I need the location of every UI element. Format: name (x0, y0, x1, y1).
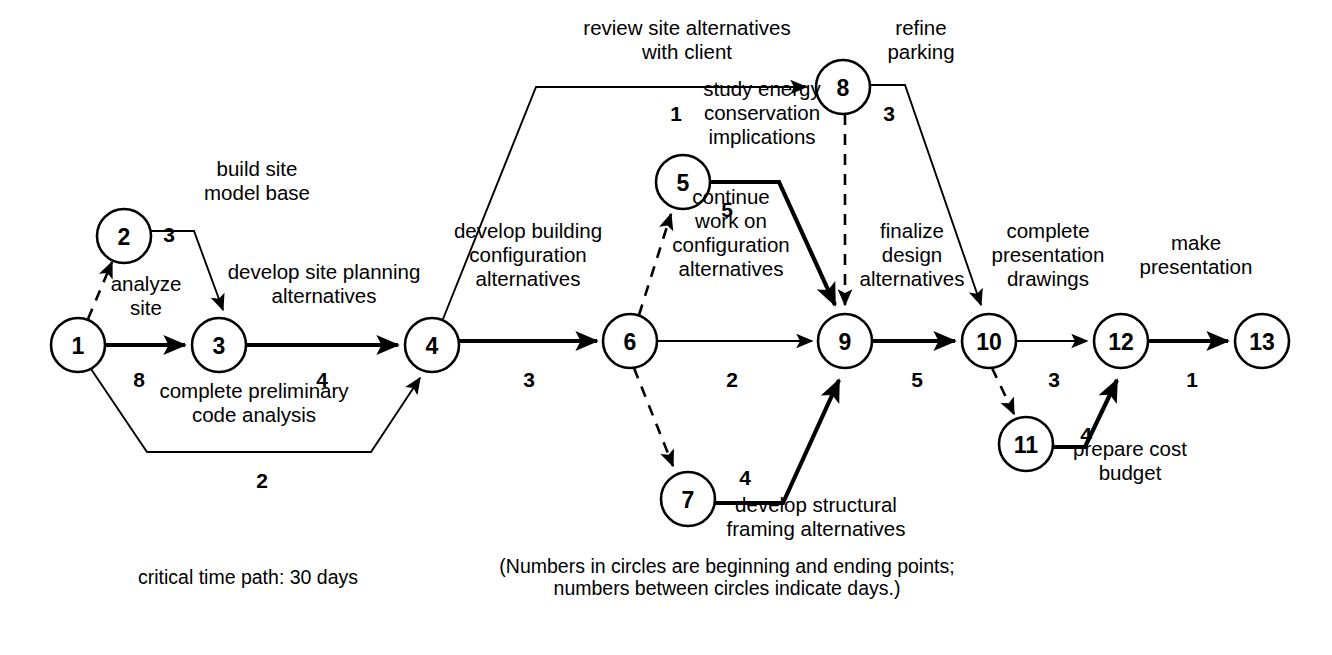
edge-1-to-2[interactable] (88, 262, 112, 319)
node-4[interactable]: 4 (405, 318, 459, 372)
duration-label-3-4: 4 (316, 368, 328, 391)
edge-7-to-9[interactable] (715, 380, 839, 503)
task-label-review-site-alternatives: review site alternativeswith client (583, 16, 790, 63)
cpm-network-diagram-svg: 1 2 3 4 5 6 7 (0, 0, 1332, 655)
task-label-develop-site-planning: develop site planningalternatives (228, 260, 421, 307)
duration-label-6-9: 2 (726, 368, 738, 391)
node-9[interactable]: 9 (818, 314, 872, 368)
duration-label-2-3: 3 (163, 223, 175, 246)
task-labels-layer: build sitemodel base analyzesite develop… (111, 16, 1253, 540)
duration-label-10-12: 3 (1048, 368, 1060, 391)
node-7[interactable]: 7 (661, 472, 715, 526)
node-12-label: 12 (1108, 329, 1134, 355)
edge-6-to-5[interactable] (639, 214, 671, 315)
edge-10-to-11[interactable] (992, 368, 1014, 414)
node-11-label: 11 (1014, 432, 1039, 458)
duration-label-12-13: 1 (1186, 368, 1198, 391)
task-label-study-energy-conservation: study energyconservationimplications (703, 77, 821, 148)
node-3-label: 3 (213, 333, 226, 359)
caption-legend: (Numbers in circles are beginning and en… (499, 555, 954, 600)
node-10[interactable]: 10 (962, 314, 1016, 368)
node-2-label: 2 (118, 224, 131, 250)
duration-label-1-4: 2 (256, 469, 268, 492)
task-label-develop-structural-framing: develop structuralframing alternatives (727, 493, 906, 540)
node-7-label: 7 (682, 487, 695, 513)
duration-label-7-9: 4 (739, 466, 751, 489)
node-12[interactable]: 12 (1094, 314, 1148, 368)
node-8[interactable]: 8 (816, 60, 870, 114)
edges-layer (88, 85, 1228, 503)
duration-label-8-10: 3 (883, 102, 895, 125)
duration-label-9-10: 5 (911, 368, 923, 391)
node-5-label: 5 (677, 170, 690, 196)
task-label-refine-parking: refineparking (887, 16, 954, 63)
node-10-label: 10 (976, 329, 1002, 355)
caption-critical-path: critical time path: 30 days (138, 566, 358, 588)
task-label-develop-building-config: develop buildingconfigurationalternative… (454, 219, 602, 290)
node-6-label: 6 (624, 329, 637, 355)
duration-label-11-12: 4 (1080, 423, 1092, 446)
node-9-label: 9 (839, 329, 852, 355)
task-label-make-presentation: makepresentation (1140, 231, 1253, 278)
node-11[interactable]: 11 (999, 417, 1053, 471)
node-13[interactable]: 13 (1235, 314, 1289, 368)
node-4-label: 4 (426, 333, 439, 359)
duration-label-1-3: 8 (133, 368, 145, 391)
node-1[interactable]: 1 (51, 318, 105, 372)
edge-6-to-7[interactable] (634, 368, 673, 466)
node-8-label: 8 (837, 75, 850, 101)
task-label-finalize-design-alternatives: finalizedesignalternatives (860, 219, 965, 290)
task-label-analyze-site: analyzesite (111, 272, 182, 319)
node-13-label: 13 (1249, 329, 1275, 355)
duration-label-4-8: 1 (670, 102, 682, 125)
node-2[interactable]: 2 (97, 209, 151, 263)
duration-label-4-6: 3 (523, 368, 535, 391)
node-6[interactable]: 6 (603, 314, 657, 368)
task-label-build-site-model-base: build sitemodel base (204, 157, 310, 204)
node-3[interactable]: 3 (192, 318, 246, 372)
duration-label-5-9: 5 (721, 198, 733, 221)
captions-layer: critical time path: 30 days (Numbers in … (138, 555, 955, 600)
network-diagram-page: 1 2 3 4 5 6 7 (0, 0, 1332, 655)
node-1-label: 1 (72, 333, 85, 359)
task-label-complete-presentation-drawings: completepresentationdrawings (992, 219, 1105, 290)
